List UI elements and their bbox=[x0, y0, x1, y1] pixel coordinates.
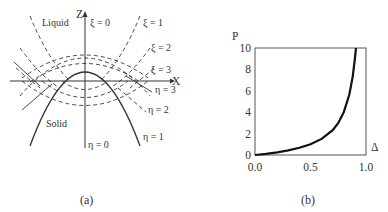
y-tick-label: 2 bbox=[245, 128, 251, 140]
panel-b-chart bbox=[255, 48, 366, 155]
eta-1-label: η = 1 bbox=[143, 131, 164, 142]
y-tick-label: 4 bbox=[245, 106, 251, 118]
y-tick-label: 0 bbox=[245, 149, 251, 161]
xi-1-label: ξ = 1 bbox=[143, 17, 163, 29]
y-ticks: 0246810 bbox=[240, 42, 252, 161]
x-tick-label: 1.0 bbox=[359, 161, 374, 173]
y-axis-label: P bbox=[232, 30, 238, 42]
region-solid-label: Solid bbox=[46, 118, 67, 129]
x-tick-label: 0.0 bbox=[248, 161, 263, 173]
x-tick-label: 0.5 bbox=[303, 161, 318, 173]
z-axis-arrow-icon bbox=[83, 11, 88, 17]
eta-0-label: η = 0 bbox=[88, 139, 109, 150]
xi-0-label: ξ = 0 bbox=[90, 17, 110, 29]
x-axis-label-delta: Δ bbox=[371, 141, 378, 153]
y-tick-label: 8 bbox=[245, 63, 251, 75]
eta-2-right-line bbox=[118, 88, 146, 112]
eta-3-left-line bbox=[14, 62, 40, 86]
eta-3-label: η = 3 bbox=[155, 84, 176, 95]
xi-2-label: ξ = 2 bbox=[151, 42, 171, 54]
region-liquid-label: Liquid bbox=[42, 17, 69, 28]
panel-b-caption: (b) bbox=[301, 193, 315, 207]
z-axis-label: Z bbox=[76, 8, 83, 20]
p-delta-curve bbox=[255, 48, 356, 155]
eta-2-label: η = 2 bbox=[148, 104, 169, 115]
figure: Z X Liquid Solid ξ = 0 ξ = 1 ξ = 2 ξ = 3… bbox=[0, 0, 388, 212]
x-ticks: 0.00.51.0 bbox=[248, 161, 374, 173]
panel-a-caption: (a) bbox=[80, 193, 93, 207]
eta-3-right-line bbox=[126, 76, 152, 92]
xi-3-label: ξ = 3 bbox=[151, 64, 171, 76]
y-tick-label: 6 bbox=[245, 85, 251, 97]
plot-frame bbox=[255, 48, 366, 155]
panel-a-diagram bbox=[10, 11, 175, 148]
y-tick-label: 10 bbox=[240, 42, 252, 54]
